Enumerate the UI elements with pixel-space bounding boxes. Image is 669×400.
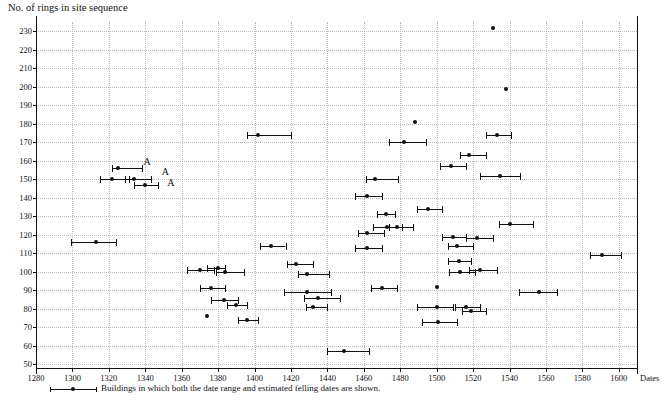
data-point — [491, 26, 495, 30]
y-tick-label: 210 — [6, 63, 32, 73]
range-bar — [327, 351, 369, 352]
range-bar — [216, 272, 243, 273]
range-bar-cap-left — [466, 235, 467, 242]
range-bar-cap-left — [460, 152, 461, 159]
y-tick — [33, 142, 36, 143]
range-bar — [306, 307, 328, 308]
range-bar — [287, 264, 312, 265]
range-bar-cap-right — [557, 289, 558, 296]
x-tick — [72, 369, 73, 372]
data-point — [451, 235, 455, 239]
data-point — [342, 349, 346, 353]
y-tick-label: 80 — [6, 304, 32, 314]
grid-line-vertical — [109, 22, 111, 368]
y-tick-label: 160 — [6, 156, 32, 166]
x-tick-label: 1540 — [494, 373, 526, 383]
range-bar-cap-right — [426, 139, 427, 146]
range-bar-cap-right — [621, 252, 622, 259]
data-point — [449, 164, 453, 168]
y-tick-label: 70 — [6, 322, 32, 332]
range-bar-cap-left — [216, 269, 217, 276]
range-bar-cap-left — [207, 265, 208, 272]
range-bar-cap-right — [442, 206, 443, 213]
chart-root: No. of rings in site sequence 5060708090… — [0, 0, 669, 400]
range-bar-cap-left — [462, 308, 463, 315]
range-bar-cap-left — [327, 348, 328, 355]
range-bar-cap-left — [366, 176, 367, 183]
legend-cap-left — [50, 387, 51, 392]
range-bar-cap-right — [520, 173, 521, 180]
range-bar — [440, 166, 465, 167]
data-point — [256, 133, 260, 137]
data-point — [116, 166, 120, 170]
range-bar-cap-left — [227, 302, 228, 309]
x-tick — [364, 369, 365, 372]
x-tick-label: 1420 — [275, 373, 307, 383]
range-bar-cap-left — [417, 304, 418, 311]
annotation-label: A — [143, 156, 150, 167]
data-point — [234, 303, 238, 307]
range-bar-cap-left — [480, 173, 481, 180]
grid-line-horizontal — [36, 327, 637, 329]
y-tick — [33, 31, 36, 32]
y-tick — [33, 198, 36, 199]
range-bar-cap-left — [417, 206, 418, 213]
x-tick-label: 1400 — [239, 373, 271, 383]
grid-line-horizontal — [36, 216, 637, 218]
range-bar-cap-left — [519, 289, 520, 296]
grid-line-vertical — [182, 22, 184, 368]
range-bar-cap-right — [497, 267, 498, 274]
range-bar-cap-right — [466, 163, 467, 170]
y-tick — [33, 309, 36, 310]
data-point — [305, 290, 309, 294]
x-tick-label: 1380 — [202, 373, 234, 383]
range-bar-cap-left — [371, 285, 372, 292]
x-tick — [327, 369, 328, 372]
range-bar-cap-left — [442, 234, 443, 241]
y-axis-line — [36, 16, 37, 374]
data-point — [294, 262, 298, 266]
range-bar-cap-left — [449, 269, 450, 276]
data-point — [537, 290, 541, 294]
y-tick — [33, 216, 36, 217]
x-tick-label: 1500 — [421, 373, 453, 383]
range-bar — [466, 238, 493, 239]
data-point — [365, 246, 369, 250]
range-bar-cap-right — [471, 258, 472, 265]
range-bar-cap-left — [448, 258, 449, 265]
grid-line-horizontal — [36, 364, 637, 366]
range-bar — [389, 227, 413, 228]
range-bar-cap-left — [499, 221, 500, 228]
grid-line-vertical — [400, 22, 402, 368]
grid-line-vertical — [72, 22, 74, 368]
grid-line-vertical — [619, 22, 621, 368]
range-bar — [460, 155, 485, 156]
grid-line-vertical — [510, 22, 512, 368]
range-bar-cap-right — [369, 348, 370, 355]
data-point — [469, 309, 473, 313]
x-tick — [473, 369, 474, 372]
range-bar-cap-left — [469, 267, 470, 274]
range-bar — [590, 255, 621, 256]
x-tick-label: 1320 — [93, 373, 125, 383]
range-bar-cap-left — [134, 182, 135, 189]
range-bar-cap-left — [358, 230, 359, 237]
x-tick-label: 1440 — [311, 373, 343, 383]
range-bar-cap-right — [158, 182, 159, 189]
data-point — [464, 305, 468, 309]
x-tick-label: 1360 — [166, 373, 198, 383]
range-bar-cap-left — [298, 271, 299, 278]
range-bar-cap-right — [286, 243, 287, 250]
annotation-label: A — [167, 177, 174, 188]
range-bar-cap-left — [125, 176, 126, 183]
range-bar-cap-right — [486, 152, 487, 159]
range-bar-cap-left — [448, 243, 449, 250]
range-bar-cap-right — [398, 176, 399, 183]
grid-line-horizontal — [36, 198, 637, 200]
range-bar — [247, 135, 291, 136]
grid-line-vertical — [291, 22, 293, 368]
grid-line-horizontal — [36, 50, 637, 52]
data-point — [475, 236, 479, 240]
grid-line-vertical — [327, 22, 329, 368]
data-point — [269, 244, 273, 248]
